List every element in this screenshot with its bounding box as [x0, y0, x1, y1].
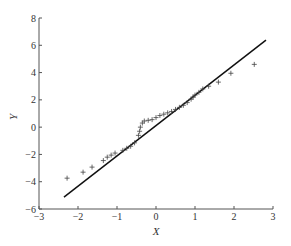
x-tick-label: −2 — [73, 211, 84, 222]
x-tick-label: 0 — [154, 211, 159, 222]
x-tick-label: 3 — [271, 211, 276, 222]
x-tick-label: 1 — [193, 211, 198, 222]
y-axis-ticks: −6−4−202468 — [25, 13, 42, 215]
axes — [39, 18, 273, 209]
x-tick-label: −1 — [112, 211, 123, 222]
y-tick-label: 8 — [31, 13, 36, 24]
plus-marker — [206, 84, 211, 89]
plus-marker — [65, 176, 70, 181]
y-tick-label: 6 — [31, 40, 36, 51]
x-tick-label: 2 — [232, 211, 237, 222]
plus-marker — [90, 165, 95, 170]
x-tick-label: −3 — [34, 211, 45, 222]
y-tick-label: 4 — [31, 67, 36, 78]
plus-marker — [101, 158, 106, 163]
plus-marker — [81, 170, 86, 175]
plus-marker — [228, 71, 233, 76]
y-tick-label: −4 — [25, 176, 36, 187]
y-tick-label: 2 — [31, 94, 36, 105]
plus-marker — [252, 62, 257, 67]
y-tick-label: −2 — [25, 149, 36, 160]
plus-marker — [137, 129, 142, 134]
plus-marker — [216, 80, 221, 85]
y-tick-label: 0 — [31, 122, 36, 133]
x-axis-ticks: −3−2−10123 — [34, 206, 276, 222]
reference-line — [64, 40, 266, 197]
y-axis-label: Y — [7, 112, 19, 120]
qq-plot: −6−4−202468 −3−2−10123 X Y — [0, 0, 291, 246]
plus-marker — [146, 118, 151, 123]
x-axis-label: X — [152, 225, 161, 237]
